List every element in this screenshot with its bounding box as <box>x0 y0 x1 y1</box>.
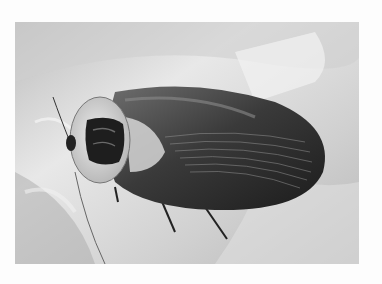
cockroach-on-leaf-image <box>15 22 359 264</box>
photograph <box>15 22 359 264</box>
